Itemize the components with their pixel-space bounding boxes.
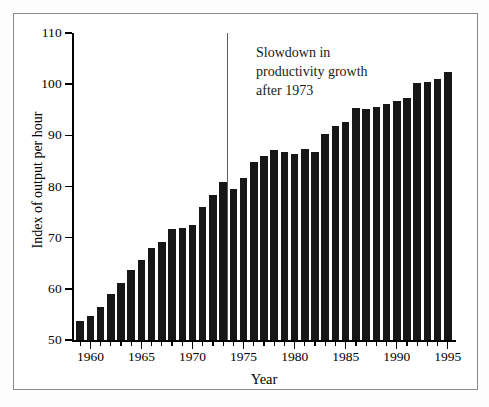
x-axis-title: Year — [72, 371, 456, 388]
y-tick-mark — [65, 83, 72, 84]
x-tick-mark-major — [345, 341, 346, 349]
bar — [107, 294, 115, 340]
bar — [199, 207, 207, 340]
x-tick-mark-minor — [376, 341, 377, 346]
bar — [352, 108, 360, 340]
y-axis-title: Index of output per hour — [30, 80, 46, 280]
bar — [373, 107, 381, 340]
x-tick-mark-minor — [202, 341, 203, 346]
x-tick-mark-major — [243, 341, 244, 349]
x-tick-mark-minor — [212, 341, 213, 346]
y-tick-label-wrap: 60 — [0, 282, 62, 296]
bar — [444, 72, 452, 340]
bar — [301, 149, 309, 340]
x-tick-mark-minor — [427, 341, 428, 346]
x-tick-mark-major — [192, 341, 193, 349]
figure-page: 1101009080706050 Index of output per hou… — [0, 0, 489, 407]
x-tick-mark-minor — [120, 341, 121, 346]
y-tick-mark — [65, 32, 72, 33]
x-tick-mark-minor — [110, 341, 111, 346]
x-tick-mark-minor — [366, 341, 367, 346]
bar — [424, 82, 432, 340]
bar — [393, 101, 401, 340]
bar — [179, 228, 187, 340]
x-tick-mark-major — [294, 341, 295, 349]
bar — [189, 225, 197, 340]
bar — [260, 156, 268, 340]
y-tick-mark — [65, 339, 72, 340]
bar — [230, 189, 238, 340]
x-tick-mark-minor — [80, 341, 81, 346]
chart-plot-area: 1101009080706050 Index of output per hou… — [0, 0, 489, 407]
bar — [138, 260, 146, 340]
bar — [240, 178, 248, 340]
x-tick-label: 1995 — [418, 350, 478, 364]
bar — [76, 321, 84, 340]
bar — [321, 134, 329, 340]
y-tick-mark — [65, 237, 72, 238]
x-tick-mark-minor — [161, 341, 162, 346]
x-tick-mark-minor — [253, 341, 254, 346]
x-tick-mark-minor — [437, 341, 438, 346]
y-tick-mark — [65, 135, 72, 136]
bar — [281, 152, 289, 340]
x-tick-mark-minor — [304, 341, 305, 346]
bar — [148, 248, 156, 340]
y-tick-mark — [65, 288, 72, 289]
bar — [97, 307, 105, 340]
x-tick-mark-minor — [182, 341, 183, 346]
x-tick-mark-minor — [314, 341, 315, 346]
x-tick-mark-minor — [233, 341, 234, 346]
bar — [434, 79, 442, 340]
x-tick-mark-minor — [171, 341, 172, 346]
y-tick-mark — [65, 186, 72, 187]
x-tick-mark-minor — [263, 341, 264, 346]
bar — [87, 316, 95, 340]
x-tick-mark-minor — [417, 341, 418, 346]
x-tick-mark-major — [396, 341, 397, 349]
x-tick-mark-minor — [325, 341, 326, 346]
x-tick-mark-minor — [131, 341, 132, 346]
x-tick-mark-minor — [355, 341, 356, 346]
bar — [403, 98, 411, 340]
x-tick-mark-minor — [284, 341, 285, 346]
x-tick-mark-major — [447, 341, 448, 349]
x-tick-mark-minor — [151, 341, 152, 346]
bar — [209, 195, 217, 340]
bar — [250, 162, 258, 340]
bar — [158, 242, 166, 340]
x-tick-mark-minor — [335, 341, 336, 346]
x-tick-mark-minor — [386, 341, 387, 346]
bar — [332, 126, 340, 340]
x-tick-mark-major — [141, 341, 142, 349]
bar — [291, 154, 299, 340]
bar — [168, 229, 176, 340]
x-tick-mark-minor — [406, 341, 407, 346]
x-tick-mark-minor — [223, 341, 224, 346]
y-tick-label-wrap: 50 — [0, 333, 62, 347]
x-tick-mark-major — [90, 341, 91, 349]
bar — [127, 270, 135, 340]
bar — [413, 83, 421, 340]
y-tick-label: 60 — [28, 282, 62, 296]
y-tick-label-wrap: 110 — [0, 26, 62, 40]
x-tick-mark-minor — [274, 341, 275, 346]
reference-line-1973 — [227, 33, 228, 340]
y-tick-label: 110 — [28, 26, 62, 40]
bar — [117, 283, 125, 340]
bar — [383, 104, 391, 340]
slowdown-annotation: Slowdown in productivity growth after 19… — [256, 43, 368, 100]
x-tick-mark-minor — [100, 341, 101, 346]
bar — [362, 109, 370, 340]
y-tick-label: 50 — [28, 333, 62, 347]
bar — [270, 150, 278, 340]
bar — [342, 122, 350, 340]
bar — [311, 152, 319, 340]
